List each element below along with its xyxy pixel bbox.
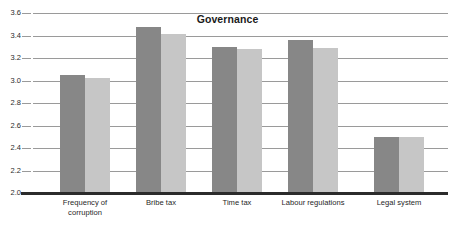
bar — [136, 27, 161, 194]
bar — [161, 34, 186, 193]
x-axis-category-label: Labour regulations — [268, 198, 358, 208]
bar — [237, 49, 262, 193]
y-axis-tick-label: 2.0 — [0, 189, 21, 197]
bar — [313, 48, 338, 193]
y-axis-tick-mark — [22, 148, 31, 149]
y-axis-tick-label: 3.4 — [0, 32, 21, 40]
y-axis-tick-mark — [22, 58, 31, 59]
y-axis-tick-mark — [22, 81, 31, 82]
gridline — [33, 36, 448, 37]
x-axis-category-label-line: corruption — [40, 208, 130, 218]
y-axis-tick-mark — [22, 36, 31, 37]
x-axis-category-label-line: Labour regulations — [268, 198, 358, 208]
bar — [374, 137, 399, 193]
bar — [399, 137, 424, 193]
bar — [212, 47, 237, 193]
y-axis-tick-label: 2.4 — [0, 144, 21, 152]
bar — [288, 40, 313, 193]
x-axis-category-label: Legal system — [354, 198, 444, 208]
y-axis-tick-label: 2.2 — [0, 167, 21, 175]
y-axis-tick-label: 3.2 — [0, 54, 21, 62]
governance-bar-chart: Governance 3.63.43.23.02.82.62.42.22.0Fr… — [0, 0, 455, 232]
chart-title: Governance — [0, 13, 455, 25]
bar — [85, 78, 110, 193]
y-axis-tick-label: 2.8 — [0, 99, 21, 107]
y-axis-tick-mark — [22, 171, 31, 172]
y-axis-tick-label: 3.0 — [0, 77, 21, 85]
y-axis-tick-mark — [22, 126, 31, 127]
y-axis-tick-mark — [22, 103, 31, 104]
bar — [60, 75, 85, 193]
x-axis-baseline — [21, 192, 448, 195]
x-axis-category-label-line: Legal system — [354, 198, 444, 208]
y-axis-tick-label: 2.6 — [0, 122, 21, 130]
plot-area: 3.63.43.23.02.82.62.42.22.0Frequency ofc… — [0, 0, 455, 232]
